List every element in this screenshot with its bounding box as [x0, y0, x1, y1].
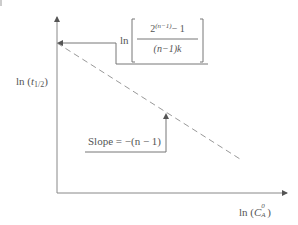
x-label-sub: A [261, 212, 265, 219]
y-label-prefix: ln ( [16, 75, 31, 87]
y-label-suffix: ) [44, 75, 48, 87]
x-axis-label: ln (C0A) [239, 207, 271, 218]
x-label-sup: 0 [261, 203, 265, 210]
numerator-exp: (n−1) [155, 22, 171, 30]
intercept-ln: ln [120, 35, 129, 46]
x-label-prefix: ln ( [239, 206, 254, 218]
y-axis-label: ln (t1/2) [16, 76, 48, 89]
left-bracket [132, 19, 135, 62]
fraction-denominator: (n−1)k [137, 44, 198, 54]
x-label-suffix: ) [267, 206, 271, 218]
slope-label: Slope = −(n − 1) [88, 136, 161, 147]
right-bracket [200, 19, 203, 62]
fraction-numerator: 2(n−1)− 1 [137, 23, 198, 34]
y-label-sub: 1/2 [34, 80, 44, 89]
numerator-rest: − 1 [172, 23, 185, 34]
